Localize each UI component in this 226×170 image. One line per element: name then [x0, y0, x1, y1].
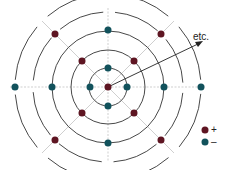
concentric-charge-diagram: etc. + – — [0, 0, 226, 170]
legend-negative-swatch — [202, 139, 209, 146]
legend-negative-label: – — [211, 136, 217, 147]
legend-positive-swatch — [202, 127, 209, 134]
etc-label: etc. — [193, 31, 209, 42]
etc-arrow — [108, 41, 203, 87]
legend: + – — [202, 124, 218, 147]
legend-positive-label: + — [211, 124, 217, 135]
